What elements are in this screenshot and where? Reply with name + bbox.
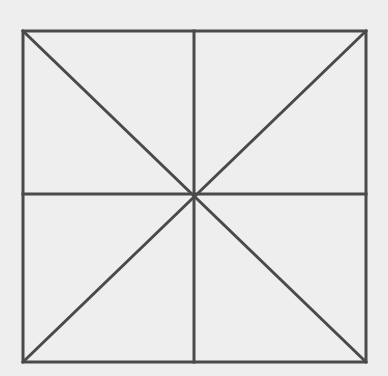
square-diagram: [0, 0, 388, 376]
interior-lines: [23, 31, 366, 362]
